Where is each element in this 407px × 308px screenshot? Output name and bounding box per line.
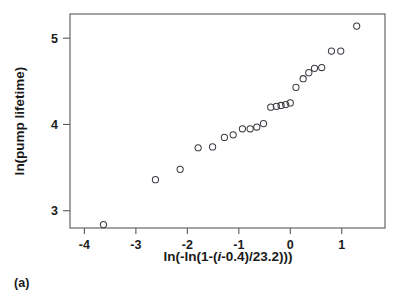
data-point	[230, 132, 236, 138]
data-point	[195, 145, 201, 151]
y-tick-label: 3	[51, 204, 58, 218]
panel-label: (a)	[14, 276, 30, 290]
x-axis-title: ln(-ln(1-(i-0.4)/23.2)))	[163, 249, 292, 264]
y-axis-title: ln(pump lifetime)	[12, 67, 27, 176]
data-point	[177, 166, 183, 172]
x-tick-label: -3	[130, 238, 141, 252]
data-point	[260, 120, 266, 126]
scatter-plot: -4-3-2-101 345 ln(-ln(1-(i-0.4)/23.2))) …	[0, 0, 407, 308]
x-tick-label: -4	[79, 238, 90, 252]
data-point	[100, 221, 106, 227]
data-point	[306, 70, 312, 76]
data-point	[293, 84, 299, 90]
y-axis-ticks: 345	[51, 32, 70, 219]
data-points	[100, 23, 359, 228]
data-point	[311, 65, 317, 71]
plot-frame	[70, 14, 385, 228]
y-tick-label: 5	[51, 32, 58, 46]
data-point	[152, 177, 158, 183]
data-point	[209, 144, 215, 150]
data-point	[247, 126, 253, 132]
y-tick-label: 4	[51, 118, 58, 132]
data-point	[319, 64, 325, 70]
x-tick-label: 1	[338, 238, 345, 252]
figure-panel-a: -4-3-2-101 345 ln(-ln(1-(i-0.4)/23.2))) …	[0, 0, 407, 308]
data-point	[239, 126, 245, 132]
data-point	[328, 48, 334, 54]
data-point	[354, 23, 360, 29]
data-point	[300, 76, 306, 82]
data-point	[254, 124, 260, 130]
data-point	[338, 48, 344, 54]
data-point	[221, 134, 227, 140]
